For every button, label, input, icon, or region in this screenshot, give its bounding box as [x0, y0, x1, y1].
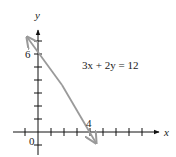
origin-label: 0	[29, 135, 35, 147]
y-axis-label: y	[34, 9, 40, 21]
y-intercept-label: 6	[25, 48, 31, 60]
linear-equation-graph: y x 6 4 0 3x + 2y = 12	[0, 0, 176, 157]
x-intercept-label: 4	[86, 117, 92, 129]
equation-label: 3x + 2y = 12	[82, 59, 138, 71]
x-axis-label: x	[163, 126, 169, 138]
